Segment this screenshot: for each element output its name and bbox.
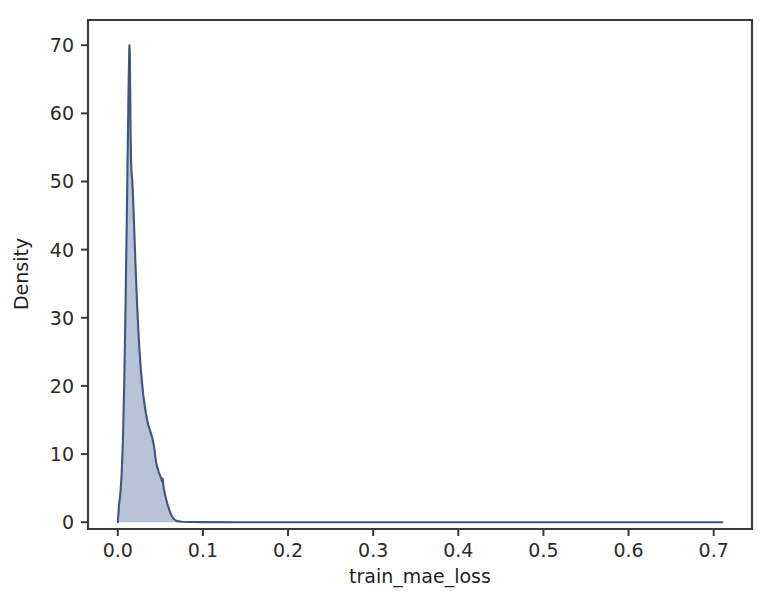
y-tick-label: 40 xyxy=(50,239,74,261)
x-tick-label: 0.2 xyxy=(273,539,303,561)
y-tick-label: 50 xyxy=(50,170,74,192)
y-tick-label: 0 xyxy=(62,511,74,533)
y-tick-label: 60 xyxy=(50,102,74,124)
x-tick-label: 0.5 xyxy=(528,539,558,561)
x-tick-label: 0.0 xyxy=(103,539,133,561)
x-tick-label: 0.6 xyxy=(613,539,643,561)
y-tick-label: 70 xyxy=(50,34,74,56)
y-tick-label: 10 xyxy=(50,443,74,465)
y-tick-label: 20 xyxy=(50,375,74,397)
x-tick-label: 0.1 xyxy=(188,539,218,561)
y-axis-title: Density xyxy=(10,238,32,310)
x-tick-label: 0.4 xyxy=(443,539,473,561)
x-tick-label: 0.3 xyxy=(358,539,388,561)
figure-canvas: 0.00.10.20.30.40.50.60.7 010203040506070… xyxy=(0,0,765,609)
x-axis-title: train_mae_loss xyxy=(349,565,491,588)
x-tick-label: 0.7 xyxy=(699,539,729,561)
kde-density-plot: 0.00.10.20.30.40.50.60.7 010203040506070… xyxy=(0,0,765,609)
figure-background xyxy=(0,0,765,609)
y-tick-label: 30 xyxy=(50,307,74,329)
